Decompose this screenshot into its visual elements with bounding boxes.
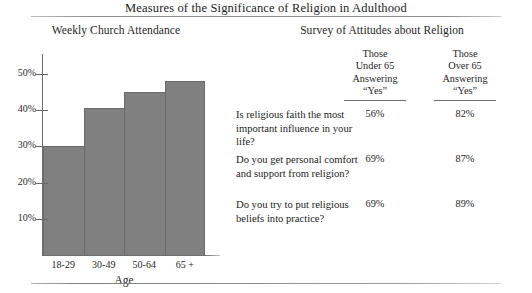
- bar-65: [165, 81, 206, 255]
- value-over-65: 82%: [422, 108, 508, 119]
- bar-50-64: [124, 92, 165, 255]
- chart-title: Weekly Church Attendance: [0, 24, 232, 36]
- y-tick-mark: [36, 74, 48, 75]
- column-header-rule-over-65: [434, 100, 496, 101]
- y-tick-mark: [36, 110, 48, 111]
- column-header-under-65: Those Under 65 Answering “Yes”: [332, 48, 418, 98]
- x-tick-label: 18-29: [43, 259, 84, 270]
- y-tick-mark: [36, 219, 48, 220]
- table-row: Do you try to put religious beliefs into…: [236, 198, 528, 243]
- column-header-line-2: Under 65: [332, 60, 418, 72]
- y-tick-label: 40%: [2, 103, 36, 114]
- value-under-65: 56%: [332, 108, 418, 119]
- plot-area: [43, 56, 205, 255]
- y-tick-label: 10%: [2, 212, 36, 223]
- value-over-65: 87%: [422, 153, 508, 164]
- x-axis-line: [42, 255, 220, 256]
- figure-container: Measures of the Significance of Religion…: [0, 0, 532, 293]
- column-header-line-4: “Yes”: [332, 85, 418, 97]
- column-header-over-65: Those Over 65 Answering “Yes”: [422, 48, 508, 98]
- table-row: Is religious faith the most important in…: [236, 108, 528, 153]
- bar-chart-panel: Weekly Church Attendance 10%20%30%40%50%…: [0, 24, 232, 274]
- table-row: Do you get personal comfort and support …: [236, 153, 528, 198]
- table-title: Survey of Attitudes about Religion: [236, 24, 528, 36]
- figure-title: Measures of the Significance of Religion…: [0, 0, 532, 15]
- value-under-65: 69%: [332, 153, 418, 164]
- column-header-rule-under-65: [344, 100, 406, 101]
- column-header-line-2: Over 65: [422, 60, 508, 72]
- bar-30-49: [84, 108, 125, 255]
- x-tick-label: 50-64: [124, 259, 165, 270]
- x-axis-title: Age: [43, 274, 205, 286]
- bar-18-29: [43, 146, 84, 255]
- column-header-line-4: “Yes”: [422, 85, 508, 97]
- column-header-line-1: Those: [422, 48, 508, 60]
- column-header-line-3: Answering: [332, 73, 418, 85]
- y-tick-label: 20%: [2, 176, 36, 187]
- x-tick-label: 30-49: [84, 259, 125, 270]
- y-tick-label: 50%: [2, 67, 36, 78]
- bottom-divider-rule: [31, 283, 501, 284]
- y-tick-mark: [36, 146, 48, 147]
- column-header-line-3: Answering: [422, 73, 508, 85]
- value-under-65: 69%: [332, 198, 418, 209]
- value-over-65: 89%: [422, 198, 508, 209]
- y-tick-label: 30%: [2, 139, 36, 150]
- y-tick-mark: [36, 183, 48, 184]
- column-header-line-1: Those: [332, 48, 418, 60]
- title-divider-rule: [31, 16, 501, 17]
- x-tick-label: 65 +: [165, 259, 206, 270]
- survey-table-panel: Survey of Attitudes about Religion Those…: [236, 24, 528, 274]
